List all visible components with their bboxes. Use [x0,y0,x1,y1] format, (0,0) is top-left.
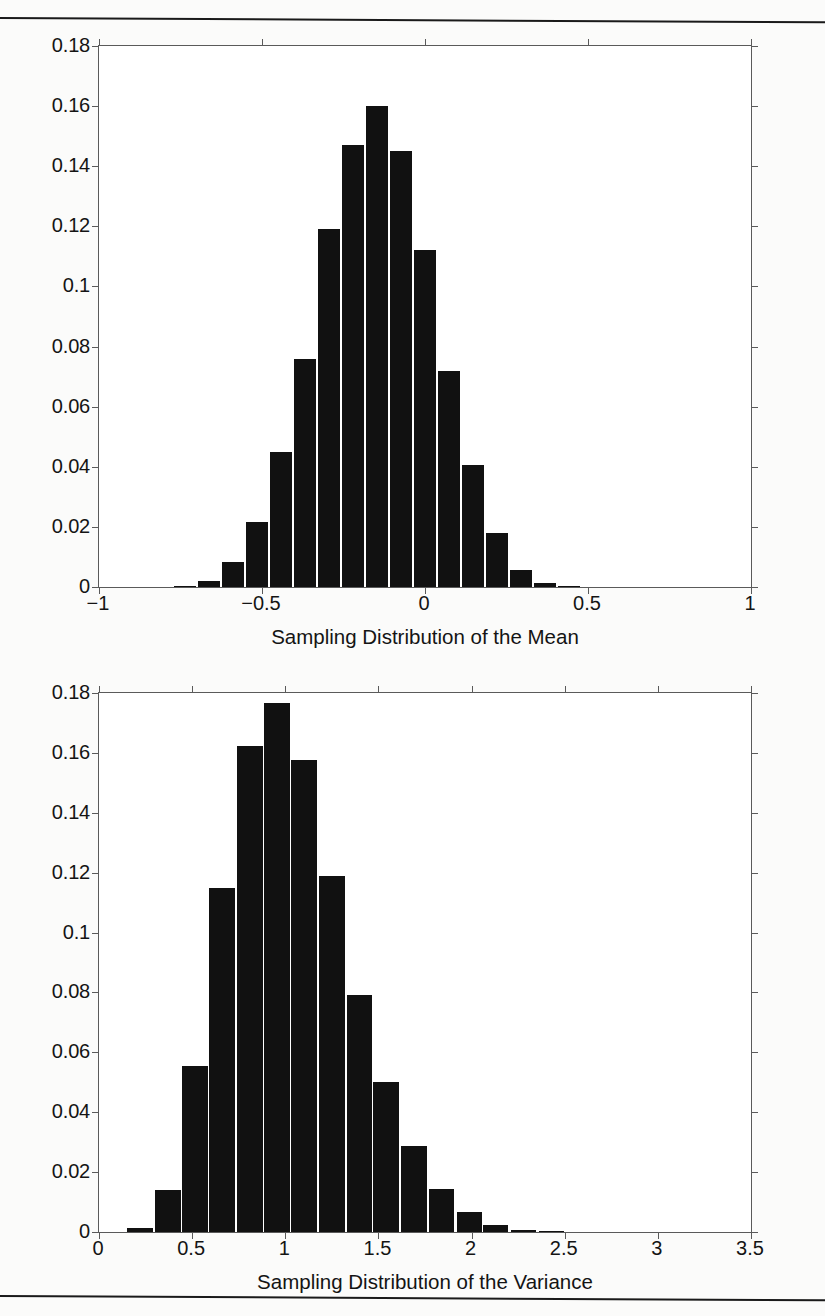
y-axis-tick-label: 0.14 [0,802,90,822]
y-axis-tick-label: 0.18 [0,35,90,55]
y-axis-tick [92,166,99,167]
x-axis-tick-top [99,39,100,46]
histogram-bar [558,586,580,588]
y-axis-tick-label: 0.14 [0,155,90,175]
y-axis-tick-right [751,286,758,287]
histogram-bar [401,1146,426,1232]
y-axis-tick-right [751,166,758,167]
y-axis-tick-right [751,813,758,814]
x-axis-tick-top [565,686,566,693]
x-axis-tick-label: 2 [431,1237,511,1259]
y-axis-tick [92,1232,99,1233]
x-axis-tick-top [285,686,286,693]
x-axis-tick-top [472,686,473,693]
y-axis-tick [92,753,99,754]
y-axis-tick [92,873,99,874]
histogram-bar [291,760,316,1232]
histogram-bar [486,533,508,587]
y-axis-tick [92,467,99,468]
y-axis-tick-right [751,1112,758,1113]
x-axis-caption-variance: Sampling Distribution of the Variance [98,1270,752,1294]
figure-sampling-distribution-mean: Sampling Distribution of the Mean 00.020… [0,40,825,680]
y-axis-tick-label: 0.1 [0,275,90,295]
histogram-bar [347,995,372,1232]
x-axis-tick-label: 3.5 [710,1237,790,1259]
histogram-bar [462,465,484,587]
histogram-bar [319,876,344,1232]
x-axis-tick-top [262,39,263,46]
x-axis-tick-label: 2.5 [524,1237,604,1259]
x-axis-tick-top [378,686,379,693]
y-axis-tick-label: 0.06 [0,396,90,416]
x-axis-tick-label: 1 [244,1237,324,1259]
y-axis-tick [92,587,99,588]
histogram-bar [414,250,436,587]
y-axis-tick [92,1112,99,1113]
x-axis-tick-label: 1.5 [337,1237,417,1259]
y-axis-tick [92,347,99,348]
histogram-bar [237,746,262,1232]
histogram-bar [534,583,556,587]
y-axis-tick-right [751,693,758,694]
y-axis-tick-label: 0.06 [0,1041,90,1061]
y-axis-tick [92,1172,99,1173]
histogram-bar [270,452,292,587]
x-axis-caption-mean: Sampling Distribution of the Mean [98,625,752,649]
figure-sampling-distribution-variance: Sampling Distribution of the Variance 00… [0,687,825,1307]
plot-axes-variance [98,692,752,1233]
histogram-bar [222,562,244,587]
x-axis-tick-label: 0.5 [547,592,627,614]
y-axis-tick [92,1052,99,1053]
y-axis-tick-label: 0.16 [0,95,90,115]
x-axis-tick-label: −0.5 [221,592,301,614]
histogram-bar [209,888,234,1232]
y-axis-tick [92,527,99,528]
histogram-bar [155,1190,180,1232]
y-axis-tick [92,933,99,934]
plot-area-mean [99,46,751,587]
y-axis-tick-right [751,347,758,348]
y-axis-tick-label: 0.04 [0,456,90,476]
y-axis-tick-label: 0.08 [0,981,90,1001]
y-axis-tick-right [751,226,758,227]
y-axis-tick-right [751,1052,758,1053]
histogram-bar [264,703,289,1232]
y-axis-tick-label: 0.16 [0,742,90,762]
y-axis-tick-right [751,106,758,107]
y-axis-tick [92,106,99,107]
histogram-bar [198,581,220,587]
x-axis-tick-top [192,686,193,693]
x-axis-tick-label: −1 [58,592,138,614]
x-axis-tick-top [425,39,426,46]
histogram-bar [438,371,460,587]
y-axis-tick-label: 0.12 [0,862,90,882]
plot-axes-mean [98,45,752,588]
histogram-bar [366,106,388,587]
histogram-bar [294,359,316,587]
y-axis-tick [92,693,99,694]
scanned-page: Sampling Distribution of the Mean 00.020… [0,0,825,1316]
y-axis-tick-label: 0.04 [0,1101,90,1121]
x-axis-tick-top [751,39,752,46]
x-axis-tick-label: 3 [617,1237,697,1259]
y-axis-tick-label: 0.02 [0,1161,90,1181]
histogram-bar [511,1230,536,1232]
y-axis-tick-right [751,1172,758,1173]
y-axis-tick [92,226,99,227]
histogram-bar [318,229,340,587]
x-axis-tick-top [99,686,100,693]
x-axis-tick-label: 0 [384,592,464,614]
y-axis-tick-label: 0.02 [0,516,90,536]
plot-area-variance [99,693,751,1232]
y-axis-tick [92,992,99,993]
histogram-bar [127,1228,152,1232]
histogram-bar [510,570,532,587]
x-axis-tick-top [751,686,752,693]
x-axis-tick-top [658,686,659,693]
histogram-bar [390,151,412,587]
y-axis-tick-right [751,46,758,47]
page-rule-top [0,17,825,23]
histogram-bar [246,522,268,587]
y-axis-tick-right [751,873,758,874]
y-axis-tick [92,286,99,287]
